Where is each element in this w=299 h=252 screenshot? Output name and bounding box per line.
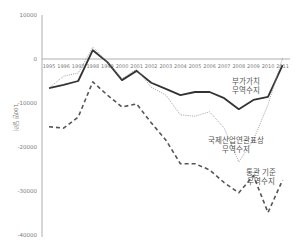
x-tick-label: 1998: [86, 63, 99, 69]
series-annotation-label: 무역수지: [247, 176, 275, 186]
y-tick-label: -40000: [18, 232, 38, 238]
series-annotation-label: 통관 기준: [246, 167, 276, 177]
y-tick-label: -10000: [18, 100, 38, 106]
x-axis: 1995199619971998199920002001200220032004…: [42, 59, 290, 69]
x-tick-label: 2002: [145, 63, 158, 69]
x-tick-label: 2003: [159, 63, 172, 69]
x-tick-label: 2000: [116, 63, 129, 69]
series-annotation-label: 부가가치: [232, 77, 260, 86]
series-annotation-label: 국제산업연관표상: [208, 135, 264, 145]
x-tick-label: 2010: [262, 63, 275, 69]
y-tick-label: 10000: [20, 12, 38, 18]
x-tick-label: 2008: [232, 63, 245, 69]
x-tick-labels: 1995199619971998199920002001200220032004…: [43, 63, 289, 69]
y-axis-label: 100만 달러: [12, 104, 20, 131]
x-tick-label: 1997: [72, 63, 85, 69]
y-tick-label: -20000: [18, 144, 38, 150]
x-tick-label: 2006: [203, 63, 216, 69]
x-tick-label: 2005: [189, 63, 202, 69]
y-tick-label: -30000: [18, 188, 38, 194]
y-axis: 100000-10000-20000-30000-40000 100만 달러: [12, 12, 42, 238]
y-tick-label: 0: [34, 56, 38, 62]
series-annotation-label: 무역수지: [232, 85, 260, 95]
x-tick-label: 2004: [174, 63, 187, 69]
y-tick-labels: 100000-10000-20000-30000-40000: [18, 12, 38, 238]
series-lines: [49, 47, 283, 212]
series-annotations: 부가가치무역수지국제산업연관표상무역수지통관 기준무역수지: [208, 77, 276, 186]
x-tick-label: 1996: [57, 63, 70, 69]
series-annotation-label: 무역수지: [222, 144, 250, 154]
x-tick-label: 2001: [130, 63, 143, 69]
trade-balance-line-chart: 100000-10000-20000-30000-40000 100만 달러 1…: [0, 0, 299, 252]
x-tick-label: 1995: [43, 63, 56, 69]
x-tick-label: 2007: [218, 63, 231, 69]
x-tick-label: 2009: [247, 63, 260, 69]
